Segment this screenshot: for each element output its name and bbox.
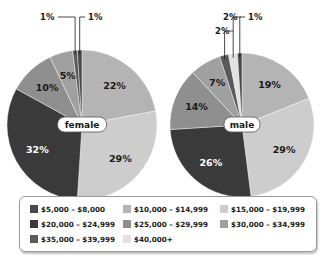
legend-swatch xyxy=(123,205,131,213)
data-label: 29% xyxy=(109,153,132,164)
legend-item: $15,000 – $19,999 xyxy=(220,203,305,215)
legend-item: $10,000 – $14,999 xyxy=(123,203,208,215)
legend-label: $35,000 – $39,999 xyxy=(41,235,115,244)
legend-label: $10,000 – $14,999 xyxy=(134,205,208,214)
legend-label: $30,000 – $34,999 xyxy=(231,220,305,229)
pie-charts: 22%29%32%10%5%1%1%female19%29%26%14%7%2%… xyxy=(0,0,324,200)
legend-swatch xyxy=(123,235,131,243)
legend-swatch xyxy=(30,220,38,228)
data-label: 7% xyxy=(209,77,226,88)
legend-swatch xyxy=(30,235,38,243)
data-label: 1% xyxy=(248,12,263,22)
legend-swatch xyxy=(220,205,228,213)
legend-item: $30,000 – $34,999 xyxy=(220,218,305,230)
legend-swatch xyxy=(123,220,131,228)
data-label: 10% xyxy=(36,82,59,93)
legend-item: $20,000 – $24,999 xyxy=(30,218,115,230)
data-label: 2% xyxy=(223,12,238,22)
legend-label: $15,000 – $19,999 xyxy=(231,205,305,214)
center-label: female xyxy=(65,120,100,130)
callout-line xyxy=(240,17,245,57)
data-label: 26% xyxy=(199,157,222,168)
legend-item: $25,000 – $29,999 xyxy=(123,218,208,230)
data-label: 29% xyxy=(273,144,296,155)
callout-line xyxy=(58,17,75,54)
data-label: 2% xyxy=(215,26,230,36)
legend-label: $5,000 – $8,000 xyxy=(41,205,105,214)
data-label: 1% xyxy=(88,12,103,22)
pie-female: 22%29%32%10%5%1%1%female xyxy=(7,12,157,200)
legend-swatch xyxy=(30,205,38,213)
legend-item: $35,000 – $39,999 xyxy=(30,233,115,245)
center-label: male xyxy=(230,120,255,130)
data-label: 14% xyxy=(185,101,208,112)
legend-item: $40,000+ xyxy=(123,233,173,245)
data-label: 1% xyxy=(40,12,55,22)
data-label: 32% xyxy=(26,144,49,155)
data-label: 19% xyxy=(258,79,281,90)
legend-label: $25,000 – $29,999 xyxy=(134,220,208,229)
data-label: 5% xyxy=(60,70,77,81)
legend-label: $20,000 – $24,999 xyxy=(41,220,115,229)
legend-swatch xyxy=(220,220,228,228)
legend-label: $40,000+ xyxy=(134,235,173,244)
data-label: 22% xyxy=(103,80,126,91)
legend: $5,000 – $8,000 $10,000 – $14,999 $15,00… xyxy=(19,196,317,252)
legend-item: $5,000 – $8,000 xyxy=(30,203,105,215)
callout-line xyxy=(80,17,85,54)
pie-male: 19%29%26%14%7%2%2%1%male xyxy=(170,12,314,197)
